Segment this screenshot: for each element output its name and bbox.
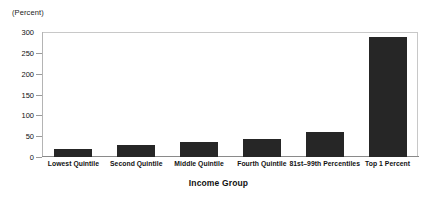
x-axis-tick-label: Second Quintile [110,160,163,167]
x-axis-tick-label: Middle Quintile [174,160,223,167]
y-axis-tick [36,136,42,137]
y-axis-tick [36,95,42,96]
bar [117,145,155,157]
x-axis-tick-labels: Lowest QuintileSecond QuintileMiddle Qui… [42,160,419,174]
y-axis-tick-label: 250 [0,53,34,54]
bar [369,37,407,157]
x-axis-tick-label: Fourth Quintile [237,160,286,167]
bar [54,149,92,157]
y-axis-tick [36,115,42,116]
x-axis-title: Income Group [0,178,437,188]
chart-figure: (Percent) Lowest QuintileSecond Quintile… [0,0,437,199]
y-axis-tick-label: 0 [0,157,34,158]
x-axis-tick-label: Lowest Quintile [48,160,99,167]
y-axis-tick-label: 300 [0,32,34,33]
x-axis-tick-label: 81st–99th Percentiles [289,160,360,167]
x-axis-tick-label: Top 1 Percent [365,160,410,167]
y-axis-tick-label: 200 [0,74,34,75]
y-axis-tick-label: 50 [0,136,34,137]
y-axis-tick-label: 150 [0,95,34,96]
bar [180,142,218,157]
y-axis-unit-label: (Percent) [12,8,44,17]
bar [306,132,344,157]
y-axis-tick [36,157,42,158]
y-axis-tick [36,53,42,54]
bar [243,139,281,157]
y-axis-tick-label: 100 [0,115,34,116]
bars-layer [42,32,419,157]
y-axis-tick [36,74,42,75]
